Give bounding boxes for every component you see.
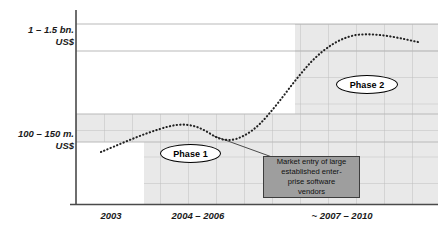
phase-1-annotation: Phase 1 <box>160 144 221 163</box>
phase-2-annotation: Phase 2 <box>336 75 398 94</box>
x-tick-2007-2010: ~ 2007 – 2010 <box>290 210 394 221</box>
market-entry-callout: Market entry of large established enter-… <box>263 156 360 198</box>
chart-container: 1 – 1.5 bn. US$ 100 – 150 m. US$ <box>0 0 438 235</box>
plot-area <box>0 0 438 235</box>
x-tick-2004-2006: 2004 – 2006 <box>150 210 246 221</box>
left-shaded-band <box>76 114 245 204</box>
x-tick-2003: 2003 <box>76 210 146 221</box>
market-entry-callout-text: Market entry of large established enter-… <box>266 157 357 197</box>
